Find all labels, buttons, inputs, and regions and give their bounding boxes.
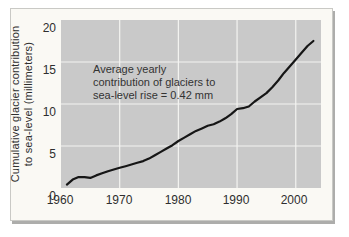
y-tick-label-5: 5 xyxy=(25,147,56,161)
line-chart xyxy=(61,20,321,188)
y-tick-label-20: 20 xyxy=(25,21,56,35)
chart-annotation-line2: contribution of glaciers to xyxy=(93,76,215,89)
y-tick-label-15: 15 xyxy=(25,63,56,77)
x-tick-label-1990: 1990 xyxy=(214,193,258,207)
x-tick-label-2000: 2000 xyxy=(272,193,316,207)
y-tick-label-10: 10 xyxy=(25,105,56,119)
x-tick-label-1970: 1970 xyxy=(97,193,141,207)
y-axis-title-line1: Cumulative glacier contribution xyxy=(9,0,22,209)
x-tick-label-1980: 1980 xyxy=(156,193,200,207)
chart-annotation-line1: Average yearly xyxy=(93,63,215,76)
chart-annotation: Average yearly contribution of glaciers … xyxy=(93,63,215,102)
x-tick-label-1960: 1960 xyxy=(38,193,82,207)
figure: Cumulative glacier contribution to sea-l… xyxy=(0,0,349,237)
chart-annotation-line3: sea-level rise = 0.42 mm xyxy=(93,89,215,102)
chart-card: Cumulative glacier contribution to sea-l… xyxy=(10,8,333,221)
plot-area: Average yearly contribution of glaciers … xyxy=(61,20,321,188)
